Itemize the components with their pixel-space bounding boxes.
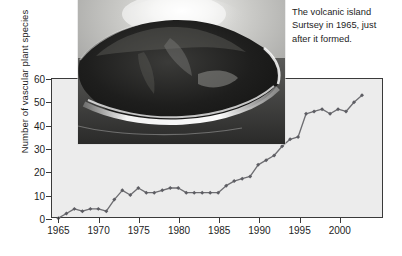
x-tick-2000 — [340, 217, 341, 223]
y-tick-60 — [46, 79, 52, 80]
x-tick-label-1965: 1965 — [47, 225, 69, 236]
data-point-1984 — [208, 191, 212, 195]
surtsey-photo-image — [78, 0, 285, 144]
y-tick-40 — [46, 126, 52, 127]
data-point-1969 — [88, 207, 92, 211]
y-tick-10 — [46, 196, 52, 197]
x-tick-1990 — [259, 217, 260, 223]
y-axis-title: Number of vascular plant species — [19, 2, 30, 162]
data-point-1970 — [96, 207, 100, 211]
data-point-1997 — [312, 109, 316, 113]
data-point-1968 — [80, 209, 84, 213]
surtsey-colonization-figure: Number of vascular plant species 0102030… — [0, 0, 402, 256]
surtsey-photo — [78, 0, 285, 144]
x-tick-label-1975: 1975 — [128, 225, 150, 236]
y-tick-label-30: 30 — [34, 144, 45, 155]
data-point-1978 — [160, 188, 164, 192]
data-point-1996 — [304, 112, 308, 116]
x-tick-label-2000: 2000 — [329, 225, 351, 236]
y-tick-50 — [46, 102, 52, 103]
y-tick-30 — [46, 149, 52, 150]
x-tick-label-1980: 1980 — [168, 225, 190, 236]
y-tick-label-60: 60 — [34, 74, 45, 85]
x-tick-1995 — [300, 217, 301, 223]
y-tick-20 — [46, 172, 52, 173]
y-tick-label-0: 0 — [39, 214, 45, 225]
data-point-1983 — [200, 191, 204, 195]
x-tick-1985 — [219, 217, 220, 223]
data-point-1988 — [240, 177, 244, 181]
x-tick-label-1990: 1990 — [248, 225, 270, 236]
y-tick-label-20: 20 — [34, 167, 45, 178]
x-tick-1975 — [139, 217, 140, 223]
x-tick-label-1970: 1970 — [87, 225, 109, 236]
photo-caption: The volcanic island Surtsey in 1965, jus… — [292, 6, 397, 46]
x-tick-1980 — [179, 217, 180, 223]
x-tick-label-1985: 1985 — [208, 225, 230, 236]
data-point-1995 — [296, 135, 300, 139]
data-point-1977 — [152, 191, 156, 195]
y-tick-label-10: 10 — [34, 190, 45, 201]
data-point-1979 — [168, 186, 172, 190]
x-tick-1970 — [99, 217, 100, 223]
data-point-1982 — [192, 191, 196, 195]
x-tick-label-1995: 1995 — [288, 225, 310, 236]
y-tick-label-40: 40 — [34, 120, 45, 131]
y-tick-0 — [46, 219, 52, 220]
y-tick-label-50: 50 — [34, 97, 45, 108]
x-tick-1965 — [58, 217, 59, 223]
